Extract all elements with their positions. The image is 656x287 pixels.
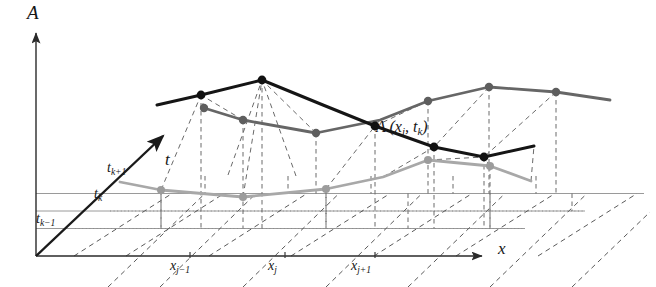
time-tie-lines [161, 80, 556, 197]
x-tick-label-j-plus-1: xj+1 [351, 258, 371, 275]
plane-dotted-lines [75, 211, 585, 229]
amplitude-value-label: A (xj, tk) [376, 118, 428, 137]
x-tick-j-plus-1-sub: j+1 [357, 265, 371, 275]
amplitude-value-prefix: A (x [376, 118, 402, 135]
vertical-plane-connectors [161, 176, 572, 229]
figure-canvas: A x t tk−1 tk tk+1 xj−1 xj xj+1 A (xj, t… [0, 0, 656, 287]
amplitude-axis-label: A [27, 2, 39, 24]
time-axis-label: t [165, 150, 170, 170]
x-tick-label-j: xj [268, 258, 277, 275]
depth-projection-lines-mid [74, 194, 637, 257]
x-axis-ticks [190, 252, 375, 258]
axis-lines [36, 33, 482, 256]
space-axis-label: x [498, 239, 506, 259]
x-tick-label-j-minus-1: xj−1 [170, 258, 190, 275]
time-level-label-k-plus-1: tk+1 [107, 160, 126, 177]
amplitude-value-mid: , t [405, 118, 417, 135]
amplitude-value-close: ) [422, 118, 427, 135]
x-tick-j-sub: j [274, 265, 277, 275]
time-level-label-k: tk [94, 186, 102, 203]
x-tick-j-minus-1-sub: j−1 [176, 265, 190, 275]
time-level-k-plus-1-sub: k+1 [111, 167, 126, 177]
time-level-label-k-minus-1: tk−1 [36, 211, 55, 228]
diagram-svg [0, 0, 656, 287]
time-level-k-minus-1-sub: k−1 [40, 218, 55, 228]
time-level-k-sub: k [98, 193, 102, 203]
